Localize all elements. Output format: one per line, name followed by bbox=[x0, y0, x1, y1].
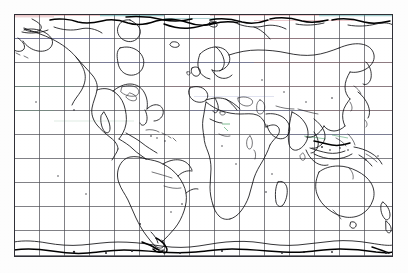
map-canvas[interactable] bbox=[14, 14, 393, 257]
coastline-africa bbox=[203, 102, 288, 219]
coastline-south-america bbox=[57, 157, 198, 252]
figure-alt-text: World map in equirectangular projection … bbox=[0, 0, 1, 1]
coastline-arctic bbox=[22, 17, 393, 48]
coastline-europe bbox=[187, 47, 265, 115]
map-plot-area[interactable] bbox=[14, 14, 393, 257]
world-map-figure: World map in equirectangular projection … bbox=[0, 0, 408, 273]
coastline-antarctica bbox=[14, 232, 393, 254]
coastline-asia bbox=[229, 44, 374, 161]
coastline-north-america bbox=[14, 28, 176, 160]
coastline-australia bbox=[316, 154, 392, 233]
scan-tint-artifacts bbox=[14, 15, 393, 139]
